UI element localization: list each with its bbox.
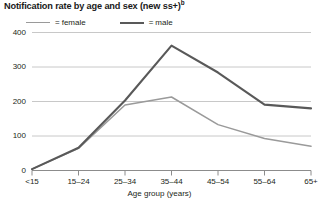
y-axis-tick-label: 300 xyxy=(0,63,26,71)
y-axis-tick-label: 200 xyxy=(0,98,26,106)
x-axis-tick-label: 65+ xyxy=(304,178,318,186)
series-line-female xyxy=(32,97,311,169)
x-axis-title: Age group (years) xyxy=(0,189,319,198)
y-axis-tick-label: 100 xyxy=(0,132,26,140)
x-axis-tick-label: 15–24 xyxy=(67,178,89,186)
data-series-group xyxy=(32,46,311,170)
y-axis-tick-label: 0 xyxy=(0,167,26,175)
y-axis-tick-label: 400 xyxy=(0,29,26,37)
x-axis-tick-label: 45–54 xyxy=(207,178,229,186)
chart-figure: Notification rate by age and sex (new ss… xyxy=(0,0,319,205)
x-axis-tick-label: 35–44 xyxy=(160,178,182,186)
plot-svg xyxy=(0,0,319,205)
x-axis-tick-label: <15 xyxy=(25,178,39,186)
plot-area: 0100200300400 <1515–2425–3435–4445–5455–… xyxy=(0,0,319,205)
series-line-male xyxy=(32,46,311,170)
x-axis-tick-label: 25–34 xyxy=(114,178,136,186)
x-axis-tick-label: 55–64 xyxy=(253,178,275,186)
x-axis-tick-marks xyxy=(32,171,311,176)
